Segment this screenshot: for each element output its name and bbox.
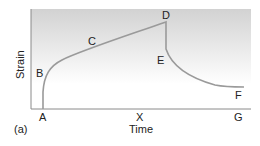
y-axis-label: Strain — [14, 50, 26, 79]
point-label-b: B — [36, 67, 43, 79]
panel-label: (a) — [14, 123, 27, 135]
tick-label-g: G — [234, 111, 243, 123]
x-axis-label: Time — [129, 123, 153, 135]
point-label-f: F — [235, 89, 242, 101]
point-label-d: D — [162, 9, 170, 21]
point-label-c: C — [88, 35, 96, 47]
creep-strain-diagram: B C D E F A X G Time Strain (a) — [0, 0, 260, 146]
point-label-e: E — [157, 54, 164, 66]
tick-label-x: X — [136, 111, 144, 123]
tick-label-a: A — [39, 111, 47, 123]
